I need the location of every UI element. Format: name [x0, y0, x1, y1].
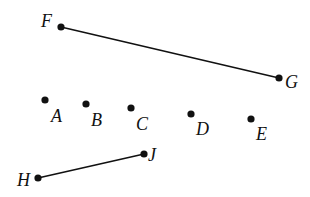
point-b-dot: [82, 100, 89, 107]
segment-fg: [61, 27, 279, 78]
point-g-dot: [275, 74, 282, 81]
point-e: E: [247, 115, 267, 144]
point-a-dot: [41, 96, 48, 103]
point-j-dot: [140, 150, 147, 157]
points-layer: F G A B C D E J: [16, 11, 298, 190]
geometry-diagram: F G A B C D E J: [0, 0, 310, 197]
point-d: D: [187, 110, 209, 139]
point-j: J: [140, 145, 157, 165]
point-c-dot: [127, 104, 134, 111]
point-h-label: H: [16, 170, 31, 190]
segment-hj: [38, 154, 144, 178]
point-f-dot: [57, 23, 64, 30]
point-a: A: [41, 96, 63, 126]
point-h: H: [16, 170, 42, 190]
point-d-dot: [187, 110, 194, 117]
segments-layer: [38, 27, 279, 178]
point-a-label: A: [50, 106, 63, 126]
point-f-label: F: [40, 11, 53, 31]
point-d-label: D: [195, 119, 209, 139]
point-h-dot: [34, 174, 41, 181]
point-c-label: C: [136, 114, 149, 134]
point-e-dot: [247, 115, 254, 122]
point-j-label: J: [148, 145, 157, 165]
point-g-label: G: [285, 72, 298, 92]
point-b: B: [82, 100, 102, 130]
point-b-label: B: [91, 110, 102, 130]
point-e-label: E: [255, 124, 267, 144]
point-c: C: [127, 104, 149, 134]
point-g: G: [275, 72, 298, 92]
point-f: F: [40, 11, 65, 31]
